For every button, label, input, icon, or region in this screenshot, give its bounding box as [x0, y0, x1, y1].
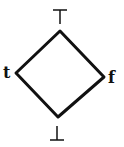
- node-t: t: [3, 63, 11, 82]
- lattice-diagram: t f: [0, 0, 124, 147]
- node-f: f: [108, 68, 116, 87]
- node-top: [53, 10, 67, 24]
- lattice-edges: [16, 31, 104, 117]
- node-bottom: [50, 126, 64, 140]
